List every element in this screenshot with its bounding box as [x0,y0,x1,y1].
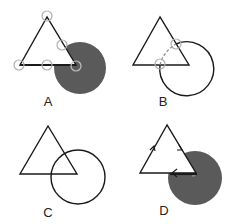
panel-label-c: C [43,206,52,219]
panel-label-b: B [159,95,168,108]
panel-label-d: D [159,204,168,217]
triangle [20,126,77,174]
panel-c [20,126,105,204]
dashed-arc [160,44,176,65]
diagram-canvas [0,0,235,224]
panel-d [140,125,222,205]
panel-label-a: A [44,95,53,108]
triangle [140,125,196,173]
panel-a [14,11,106,94]
panel-b [133,17,214,96]
circle [51,150,105,204]
triangle [20,17,76,65]
